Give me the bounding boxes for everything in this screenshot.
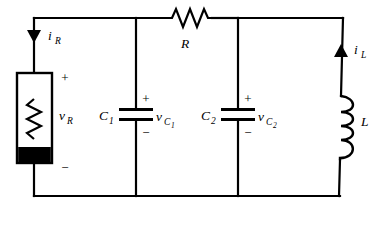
label-capacitor-c2: C 2: [201, 108, 216, 126]
label-il-main: i: [354, 42, 358, 57]
label-vc1-sub-c: C: [164, 117, 171, 127]
label-c2-main: C: [201, 108, 211, 123]
label-c2-sub: 2: [211, 116, 216, 126]
label-vc2-sub-n: 2: [273, 121, 277, 130]
wire-right-rail-lower: [339, 160, 340, 196]
circuit-diagram-figure: i R v R + − R C 1 v C 1 + − C 2: [0, 0, 378, 230]
label-vc2-main: v: [258, 109, 264, 124]
label-voltage-vr: v R: [59, 108, 73, 126]
polarity-plus-vr: +: [61, 70, 68, 85]
polarity-minus-vc2: −: [244, 125, 251, 140]
label-ir-sub: R: [54, 36, 61, 46]
current-arrow-down-head-ir: [27, 30, 41, 43]
label-vc2-sub-c: C: [266, 117, 273, 127]
variable-resistor-fill-block: [18, 147, 51, 162]
label-current-ir: i R: [48, 28, 61, 46]
label-vc1-sub-n: 1: [171, 121, 175, 130]
label-inductor-l: L: [360, 114, 369, 129]
resistor-r-zigzag: [168, 9, 212, 27]
current-arrow-up-head-il: [334, 44, 348, 57]
inductor-coil-loops: [340, 96, 353, 160]
label-ir-main: i: [48, 28, 52, 43]
polarity-minus-vr: −: [61, 160, 68, 175]
label-current-il: i L: [354, 42, 366, 60]
label-c1-main: C: [99, 108, 109, 123]
polarity-minus-vc1: −: [142, 125, 149, 140]
polarity-plus-vc2: +: [244, 91, 251, 106]
label-voltage-vc1: v C 1: [156, 109, 175, 130]
label-capacitor-c1: C 1: [99, 108, 114, 126]
polarity-plus-vc1: +: [142, 91, 149, 106]
circuit-schematic-canvas: i R v R + − R C 1 v C 1 + − C 2: [0, 0, 378, 230]
label-vr-sub: R: [66, 116, 73, 126]
label-vr-main: v: [59, 108, 65, 123]
label-resistor-r: R: [180, 36, 190, 51]
label-voltage-vc2: v C 2: [258, 109, 277, 130]
label-c1-sub: 1: [109, 116, 114, 126]
label-vc1-main: v: [156, 109, 162, 124]
label-il-sub: L: [360, 50, 366, 60]
